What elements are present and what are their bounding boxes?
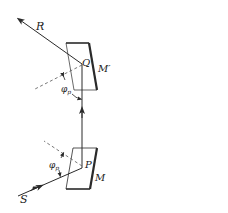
lower-angle-marker xyxy=(59,154,63,175)
outgoing-ray xyxy=(20,20,82,64)
label-s: S xyxy=(20,193,28,206)
label-angle-upper: φp xyxy=(61,84,71,96)
incoming-ray xyxy=(18,168,82,196)
label-r: R xyxy=(35,20,44,33)
label-m: M xyxy=(94,172,106,183)
normal-lines xyxy=(35,65,82,166)
periscope-diagram: R S Q P M′ M φp φp xyxy=(0,0,228,213)
label-angle-lower: φp xyxy=(49,160,59,172)
label-q: Q xyxy=(82,57,90,68)
label-p: P xyxy=(84,159,92,170)
label-m-prime: M′ xyxy=(97,63,111,74)
